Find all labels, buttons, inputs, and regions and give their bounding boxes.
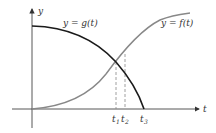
svg-text:1: 1 <box>116 118 120 125</box>
graph-diagram: y t y = g(t) y = f(t) t 1 t 2 t 3 <box>0 0 216 133</box>
y-axis-label: y <box>37 6 44 16</box>
svg-text:2: 2 <box>124 118 129 125</box>
g-curve <box>32 26 144 109</box>
g-curve-label: y = g(t) <box>62 18 98 28</box>
tick-t1: t 1 <box>112 114 120 125</box>
svg-text:3: 3 <box>144 118 148 125</box>
tick-t3: t 3 <box>140 114 148 125</box>
f-curve-label: y = f(t) <box>160 18 194 28</box>
x-axis-label: t <box>203 104 207 114</box>
tick-t2: t 2 <box>121 114 129 125</box>
